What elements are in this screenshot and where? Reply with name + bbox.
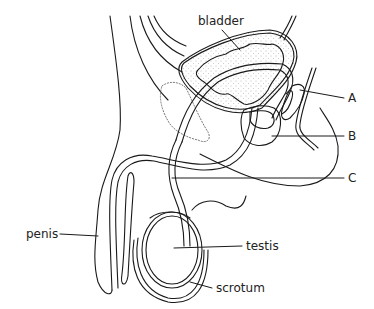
anatomy-drawing <box>0 0 374 309</box>
urethra <box>110 108 252 290</box>
testis <box>142 212 202 288</box>
label-a: A <box>348 92 356 104</box>
label-testis: testis <box>246 240 279 252</box>
label-penis: penis <box>26 228 58 240</box>
label-scrotum: scrotum <box>216 282 265 294</box>
label-b: B <box>348 130 356 142</box>
leader-penis <box>60 234 98 236</box>
label-c: C <box>348 172 356 184</box>
label-bladder: bladder <box>198 15 244 27</box>
anatomy-diagram: bladder A B C penis testis scrotum <box>0 0 374 309</box>
